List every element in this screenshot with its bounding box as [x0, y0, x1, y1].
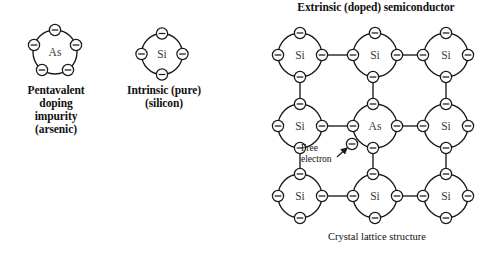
lattice-atom-r1-c2: Si — [347, 27, 402, 82]
pentavalent-atom-symbol: As — [49, 46, 62, 58]
intrinsic-label: Intrinsic (pure) (silicon) — [108, 84, 220, 110]
pentavalent-electron-5 — [62, 64, 73, 75]
lattice-atom-r3-c3: Si — [417, 168, 473, 223]
intrinsic-atom-group: Si — [136, 28, 188, 80]
free-electron-label-line-2: electron — [301, 154, 347, 165]
free-electron-icon — [346, 138, 357, 149]
dopant-atom-symbol: As — [369, 120, 382, 132]
free-electron-label-line-1: Free — [301, 143, 347, 154]
atom-symbol: Si — [441, 120, 451, 132]
atom-symbol: Si — [295, 49, 305, 61]
atom-symbol: Si — [441, 190, 451, 202]
pentavalent-electron-3 — [70, 39, 81, 50]
atom-symbol: Si — [370, 49, 380, 61]
intrinsic-electron-right — [177, 48, 188, 59]
pentavalent-label-line-3: impurity — [0, 110, 112, 123]
atom-symbol: Si — [295, 120, 305, 132]
free-electron-label: Free electron — [301, 143, 347, 165]
extrinsic-title: Extrinsic (doped) semiconductor — [256, 1, 496, 14]
lattice-atom-r3-c2: Si — [347, 168, 402, 223]
pentavalent-label-line-1: Pentavalent — [0, 84, 112, 97]
intrinsic-electron-bottom — [156, 69, 167, 80]
pentavalent-label: Pentavalent doping impurity (arsenic) — [0, 84, 112, 136]
lattice-atom-r3-c1: Si — [272, 168, 327, 223]
pentavalent-atom-group: As — [28, 24, 81, 75]
pentavalent-electron-2 — [28, 39, 39, 50]
pentavalent-label-line-4: (arsenic) — [0, 123, 112, 136]
figure-canvas: As Si — [0, 0, 496, 254]
crystal-lattice-caption: Crystal lattice structure — [282, 231, 472, 243]
atom-symbol: Si — [370, 190, 380, 202]
intrinsic-label-line-1: Intrinsic (pure) — [108, 84, 220, 97]
pentavalent-label-line-2: doping — [0, 97, 112, 110]
intrinsic-label-line-2: (silicon) — [108, 97, 220, 110]
atom-symbol: Si — [441, 49, 451, 61]
pentavalent-electron-4 — [36, 64, 47, 75]
lattice-atom-r1-c1: Si — [272, 27, 327, 82]
atom-symbol: Si — [295, 190, 305, 202]
intrinsic-electron-top — [156, 28, 167, 39]
intrinsic-atom-symbol: Si — [157, 48, 167, 60]
lattice-atom-r1-c3: Si — [417, 27, 473, 82]
intrinsic-electron-left — [136, 48, 147, 59]
pentavalent-electron-1 — [49, 24, 60, 35]
lattice-atom-r2-c3: Si — [417, 98, 473, 153]
crystal-lattice-group: Si Si Si Si — [272, 27, 473, 223]
